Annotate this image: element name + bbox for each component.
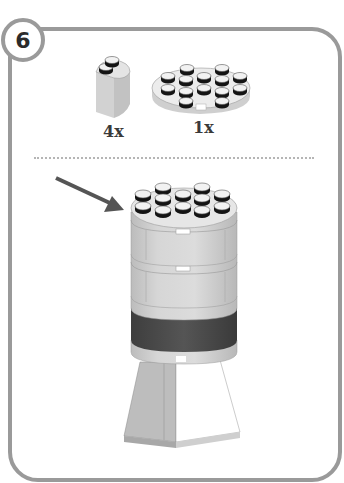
arrow-icon	[56, 178, 124, 212]
assembly-model	[124, 183, 240, 448]
part-quantity-1x: 1x	[193, 118, 214, 137]
part-round-plate	[152, 65, 250, 115]
part-quantity-4x: 4x	[103, 122, 124, 141]
section-divider	[34, 157, 314, 159]
stud-icon	[105, 57, 119, 68]
part-round-corner-brick	[96, 57, 130, 119]
instruction-illustration	[0, 0, 344, 483]
